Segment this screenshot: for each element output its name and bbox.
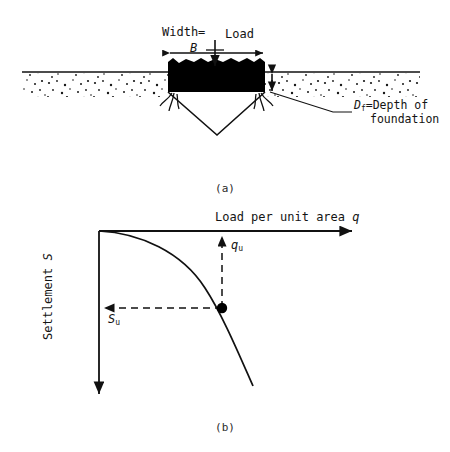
width-symbol-b: B	[190, 42, 197, 56]
su-subscript: u	[115, 318, 120, 327]
ultimate-point-dot	[217, 303, 227, 313]
figure-bearing-capacity: Width= B Load Df=Depth of foundation (a)…	[0, 0, 450, 452]
panel-a-group	[22, 40, 420, 135]
soil-stipple-left	[22, 73, 168, 97]
failure-wedge	[168, 92, 265, 135]
x-axis-symbol: q	[345, 210, 359, 224]
footing-block	[168, 58, 265, 92]
depth-symbol: D	[354, 98, 361, 112]
caption-b: (b)	[0, 421, 450, 434]
panel-b-group	[99, 231, 352, 394]
y-axis-label-text: Settlement	[41, 268, 55, 340]
soil-stipple-right	[265, 73, 420, 97]
depth-label-text: =Depth of	[366, 98, 428, 112]
qu-label: qu	[231, 239, 243, 253]
x-axis-label-text: Load per unit area	[215, 210, 345, 224]
su-label: Su	[108, 313, 120, 327]
x-axis-label: Load per unit area q	[215, 211, 360, 225]
width-label: Width=	[162, 26, 205, 40]
depth-of-foundation-label-line2: foundation	[370, 113, 439, 126]
load-label: Load	[225, 28, 254, 42]
y-axis-label: Settlement S	[42, 253, 56, 340]
y-axis-symbol: S	[41, 253, 55, 267]
figure-vector-layer	[0, 0, 450, 452]
qu-subscript: u	[238, 244, 243, 253]
caption-a: (a)	[0, 182, 450, 195]
